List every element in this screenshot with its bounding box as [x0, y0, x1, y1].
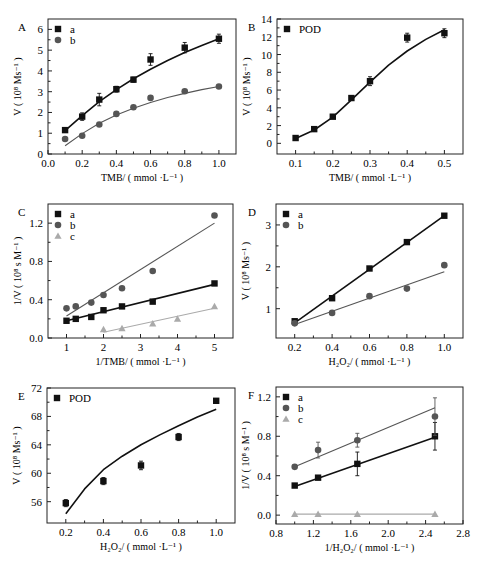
data-point-marker-circle: [72, 303, 79, 310]
data-point-marker-square: [292, 135, 298, 141]
data-point-marker-square: [100, 307, 106, 313]
y-tick-label: 0.0: [257, 509, 271, 521]
chart-panel-c: C123450.00.40.81.21/TMB/ ( mmol ·L⁻¹ )1/…: [12, 204, 233, 368]
y-tick-label: 8: [267, 66, 273, 78]
legend-POD-marker-square: [284, 26, 290, 32]
data-point-marker-circle: [404, 285, 411, 292]
series-c: [100, 303, 218, 332]
fit-line: [295, 408, 435, 467]
data-point-marker-square: [100, 478, 106, 484]
x-axis-label: TMB/ ( mmol ·L⁻¹ ): [101, 172, 183, 184]
y-tick-label: 0.4: [29, 294, 43, 306]
x-tick-label: 0.4: [325, 341, 339, 353]
series-a: [62, 34, 222, 133]
x-axis-label: TMB/ ( mmol ·L⁻¹ ): [329, 172, 411, 184]
x-tick-label: 0.8: [172, 526, 186, 538]
data-point-marker-square: [213, 398, 219, 404]
y-tick-label: 2: [267, 120, 273, 132]
data-point-marker-circle: [62, 136, 69, 143]
data-point-marker-square: [79, 113, 85, 119]
y-tick-label: 4: [267, 102, 273, 114]
x-axis-label: H₂O₂/ ( mmol ·L⁻¹ ): [329, 356, 411, 368]
x-axis-label: H₂O₂/ ( mmol ·L⁻¹ ): [100, 541, 182, 553]
data-point-marker-circle: [181, 88, 188, 95]
x-tick-label: 0.1: [289, 157, 303, 169]
x-tick-label: 0.0: [41, 157, 55, 169]
legend-label: b: [70, 34, 76, 46]
y-axis-label: V ( 10⁸ Ms⁻¹ ): [240, 242, 252, 300]
data-point-marker-circle: [432, 413, 439, 420]
x-tick-label: 0.8: [400, 341, 414, 353]
y-tick-label: 1.2: [29, 217, 43, 229]
data-point-marker-square: [216, 36, 222, 42]
x-axis-label: 1/TMB/ ( mmol ·L⁻¹ ): [96, 356, 186, 368]
series-a: [63, 280, 217, 324]
fit-line: [65, 87, 219, 146]
y-tick-label: 0.4: [257, 470, 271, 482]
y-tick-label: 0.0: [29, 332, 43, 344]
fit-line: [65, 39, 219, 131]
data-point-marker-circle: [88, 299, 95, 306]
chart-panel-b: B0.10.20.30.40.502468101214TMB/ ( mmol ·…: [241, 13, 463, 184]
y-tick-label: 3: [38, 86, 44, 98]
y-tick-label: 1: [266, 303, 272, 315]
y-tick-label: 5: [38, 44, 44, 56]
legend-label: c: [298, 413, 303, 425]
x-tick-label: 1.0: [437, 341, 451, 353]
legend-label: POD: [299, 23, 321, 35]
y-tick-label: 3: [266, 219, 272, 231]
data-point-marker-square: [182, 44, 188, 50]
data-point-marker-circle: [96, 121, 103, 128]
data-point-marker-circle: [441, 262, 448, 269]
series-POD: [292, 29, 447, 141]
data-point-marker-circle: [291, 320, 298, 327]
y-tick-label: 2: [38, 106, 44, 118]
legend-label: c: [70, 230, 75, 242]
series-b: [291, 398, 438, 470]
x-tick-label: 3: [138, 341, 144, 353]
x-tick-label: 0.4: [400, 157, 414, 169]
series-c: [291, 511, 438, 517]
y-tick-label: 60: [31, 467, 43, 479]
panel-label: A: [18, 21, 26, 33]
data-point-marker-square: [150, 298, 156, 304]
data-point-marker-circle: [366, 293, 373, 300]
x-tick-label: 1.6: [344, 527, 358, 539]
y-tick-label: 72: [31, 382, 42, 394]
chart-panel-a: A0.00.20.40.60.81.00123456TMB/ ( mmol ·L…: [12, 19, 236, 184]
legend-b-marker-circle: [55, 37, 62, 44]
x-tick-label: 4: [175, 341, 181, 353]
data-point-marker-circle: [149, 268, 156, 275]
y-tick-label: 0.8: [257, 430, 271, 442]
plot-frame: [47, 388, 235, 523]
series-a: [292, 422, 439, 488]
data-point-marker-square: [404, 239, 410, 245]
data-point-marker-square: [354, 461, 360, 467]
y-axis-label: 1/V ( 10⁸ s M⁻¹ ): [240, 421, 252, 490]
x-tick-label: 1: [64, 341, 70, 353]
series-b: [63, 212, 218, 316]
data-point-marker-square: [211, 280, 217, 286]
y-axis-label: 1/V ( 10⁸ s M⁻¹ ): [12, 237, 24, 306]
chart-panel-d: D0.20.40.60.81.0123H₂O₂/ ( mmol ·L⁻¹ )V …: [240, 204, 463, 368]
legend-c-marker-triangle: [54, 232, 61, 238]
chart-panel-f: F0.81.21.62.02.42.80.00.40.81.21/H₂O₂/ (…: [240, 387, 470, 554]
data-point-marker-circle: [100, 292, 107, 299]
y-tick-label: 10: [261, 49, 273, 61]
x-tick-label: 0.6: [134, 526, 148, 538]
data-point-marker-circle: [63, 305, 70, 312]
y-tick-label: 0.8: [29, 255, 43, 267]
data-point-marker-triangle: [211, 303, 218, 309]
x-tick-label: 0.4: [97, 526, 111, 538]
x-tick-label: 0.2: [75, 157, 89, 169]
legend-b-marker-circle: [283, 222, 290, 229]
legend-a-marker-square: [55, 26, 61, 32]
x-axis-label: 1/H₂O₂/ ( mmol ·L⁻¹ ): [325, 542, 415, 554]
series-b: [62, 83, 222, 146]
data-point-marker-square: [138, 462, 144, 468]
x-tick-label: 1.2: [307, 527, 321, 539]
x-tick-label: 0.6: [363, 341, 377, 353]
data-point-marker-circle: [119, 285, 126, 292]
data-point-marker-square: [73, 316, 79, 322]
series-POD: [63, 398, 220, 514]
